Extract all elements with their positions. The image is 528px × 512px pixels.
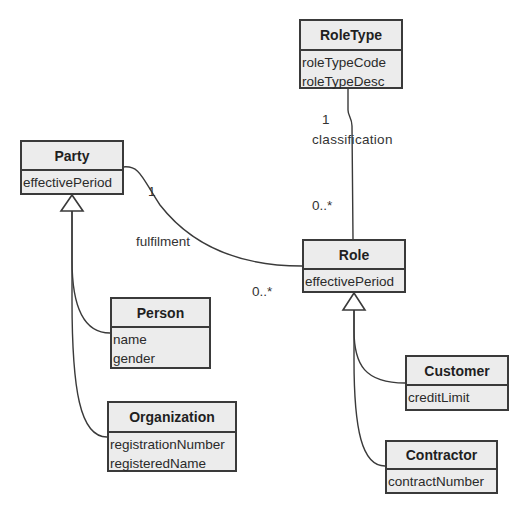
class-name: Role [304,241,404,270]
organization-generalization-line [72,211,107,437]
attribute: registrationNumber [110,435,235,454]
class-name: Contractor [387,442,496,470]
class-person[interactable]: Person name gender [110,297,211,369]
class-name: Party [22,142,122,171]
class-roletype[interactable]: RoleType roleTypeCode roleTypeDesc [299,19,403,89]
class-role[interactable]: Role effectivePeriod [302,239,406,293]
attribute: roleTypeCode [302,53,401,72]
classification-source-multiplicity: 1 [322,112,330,127]
fulfilment-target-multiplicity: 0..* [252,284,272,299]
attribute: contractNumber [388,472,496,491]
attribute: registeredName [110,454,235,473]
fulfilment-role-name: fulfilment [136,234,190,249]
connectors-layer [0,0,528,512]
attribute: creditLimit [408,388,507,407]
class-name: Organization [109,403,235,433]
class-contractor[interactable]: Contractor contractNumber [385,440,498,494]
class-name: Customer [407,357,507,386]
class-party[interactable]: Party effectivePeriod [20,140,124,195]
classification-target-multiplicity: 0..* [312,198,332,213]
class-customer[interactable]: Customer creditLimit [405,355,509,411]
class-name: RoleType [301,21,401,51]
classification-association-line [348,88,353,239]
attribute: name [113,330,209,349]
attribute: effectivePeriod [23,173,122,192]
role-generalization-triangle-icon [343,293,365,310]
person-generalization-line [72,211,110,333]
contractor-generalization-line [354,310,385,466]
class-organization[interactable]: Organization registrationNumber register… [107,401,237,472]
party-generalization-triangle-icon [61,195,83,211]
attribute: effectivePeriod [305,272,404,291]
attribute: roleTypeDesc [302,72,401,91]
class-name: Person [112,299,209,328]
attribute: gender [113,349,209,368]
customer-generalization-line [354,310,405,383]
fulfilment-association-line [123,167,302,266]
fulfilment-source-multiplicity: 1 [148,184,156,199]
classification-role-name: classification [312,132,393,147]
